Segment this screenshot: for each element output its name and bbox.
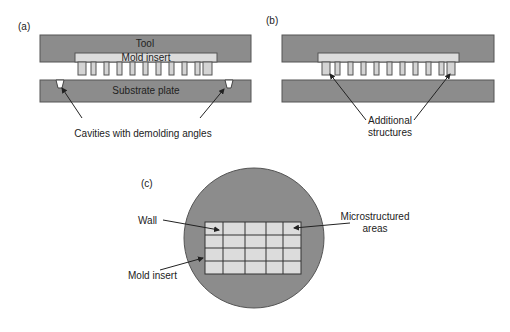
additional-line2: structures <box>368 127 412 138</box>
panel-c: (c) Wall Microstructured areas Mold inse… <box>128 168 409 308</box>
wall-label: Wall <box>138 215 157 226</box>
diagram-canvas: (a) Tool Mold insert Substrate plate Cav… <box>0 0 510 332</box>
pillars-b <box>322 62 455 75</box>
mold-insert-block-b <box>318 53 459 62</box>
panel-b-label: (b) <box>266 15 278 26</box>
panel-a-label: (a) <box>18 21 30 32</box>
additional-line1: Additional <box>368 115 412 126</box>
cavity-left <box>56 80 64 88</box>
panel-c-label: (c) <box>141 178 153 189</box>
substrate-plate-b <box>282 80 494 102</box>
panel-b: (b) Additional structures <box>266 15 494 138</box>
substrate-label: Substrate plate <box>112 85 180 96</box>
pillars-a <box>78 62 212 75</box>
mold-insert-label: Mold insert <box>122 52 171 63</box>
tool-label: Tool <box>136 38 154 49</box>
microstructured-line2: areas <box>362 223 387 234</box>
mold-insert-c-label: Mold insert <box>128 270 177 281</box>
cavities-caption: Cavities with demolding angles <box>74 128 211 139</box>
microstructured-line1: Microstructured <box>341 211 410 222</box>
cavity-right <box>225 80 233 88</box>
panel-a: (a) Tool Mold insert Substrate plate Cav… <box>18 21 251 139</box>
